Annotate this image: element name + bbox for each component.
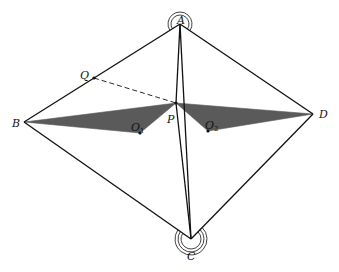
segment-PC <box>176 103 191 239</box>
side-AD <box>180 24 313 114</box>
side-BC <box>24 122 191 239</box>
label-point-c: C <box>187 250 196 263</box>
line-segments <box>24 24 313 239</box>
label-point-b: B <box>11 117 20 130</box>
side-CD <box>191 114 313 239</box>
segment-QP <box>94 78 176 103</box>
label-point-p: P <box>166 113 175 126</box>
point-labels: ABCDPQO1O2 <box>11 14 328 263</box>
shaded-triangle-P-D-O2 <box>176 103 313 131</box>
segment-AC <box>180 24 191 239</box>
segment-AP <box>176 24 180 103</box>
angle-marks <box>168 12 207 255</box>
point-q-dot <box>92 76 95 79</box>
label-subscript: 1 <box>140 127 144 135</box>
label-subscript: 2 <box>214 125 218 133</box>
label-point-a: A <box>176 14 185 27</box>
point-p-dot <box>174 101 177 104</box>
label-point-q: Q <box>80 69 89 82</box>
label-point-d: D <box>318 108 328 121</box>
geometry-diagram: ABCDPQO1O2 <box>0 0 339 272</box>
